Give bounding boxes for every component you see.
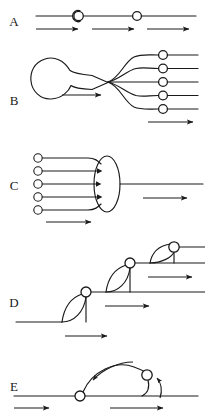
panel-e-node-right	[142, 370, 152, 380]
panel-b-branch-2	[108, 68, 158, 82]
panel-a-node-2	[133, 12, 142, 21]
panel-b: B	[10, 51, 198, 122]
panel-e-label: E	[10, 379, 18, 394]
panel-a: A	[9, 11, 196, 29]
panel-c: C	[10, 154, 203, 222]
diagram-svg: A B	[0, 0, 205, 415]
panel-d-label: D	[9, 295, 18, 310]
panel-b-node-5	[159, 105, 168, 114]
panel-d-step-1-upper	[62, 294, 82, 322]
panel-c-node-1	[34, 154, 42, 162]
panel-d: D	[9, 242, 205, 336]
panel-c-input-1	[42, 158, 101, 164]
panel-b-label: B	[10, 93, 19, 108]
panel-c-inflow-head-2	[97, 168, 102, 174]
panel-d-node-2	[125, 258, 135, 268]
panel-b-reservoir-bulb	[31, 58, 108, 99]
panel-e-transport-arc	[83, 365, 147, 392]
panel-e-node-left	[75, 391, 85, 401]
figure-canvas: A B	[0, 0, 205, 415]
panel-b-node-2	[159, 64, 168, 73]
panel-c-label: C	[10, 178, 19, 193]
panel-d-node-3	[169, 242, 179, 252]
panel-d-step-3-upper	[150, 244, 170, 263]
panel-b-node-1	[159, 51, 168, 60]
panel-e: E	[10, 362, 198, 408]
panel-c-inflow-head-3	[96, 181, 101, 187]
panel-b-node-3	[159, 78, 168, 87]
panel-c-node-4	[34, 193, 42, 201]
panel-e-curved-arrow-up	[157, 378, 161, 398]
panel-d-step-2-upper	[106, 265, 126, 292]
panel-a-label: A	[9, 14, 19, 29]
panel-b-node-4	[159, 91, 168, 100]
panel-c-node-5	[34, 206, 42, 214]
panel-e-return-limb	[142, 380, 149, 396]
panel-c-node-3	[34, 180, 42, 188]
panel-c-node-2	[34, 167, 42, 175]
panel-b-branch-4	[108, 82, 158, 96]
panel-c-input-5	[42, 204, 101, 210]
panel-a-node-1	[74, 11, 83, 20]
panel-d-node-1	[81, 287, 91, 297]
panel-c-inflow-head-4	[97, 194, 102, 200]
